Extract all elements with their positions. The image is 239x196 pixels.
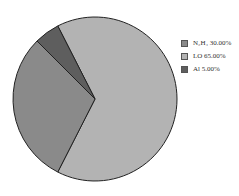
legend-item-al: Al 5.00% xyxy=(181,63,231,76)
pie-chart xyxy=(0,0,239,196)
legend-item-n2h4: N₂H₄ 30.00% xyxy=(181,37,231,50)
legend-item-lo: LO 65.00% xyxy=(181,50,231,63)
legend: N₂H₄ 30.00% LO 65.00% Al 5.00% xyxy=(181,37,231,76)
legend-swatch-al xyxy=(181,66,188,73)
legend-swatch-lo xyxy=(181,53,188,60)
legend-label-al: Al 5.00% xyxy=(193,63,220,76)
legend-swatch-n2h4 xyxy=(181,40,188,47)
legend-label-lo: LO 65.00% xyxy=(193,50,226,63)
legend-label-n2h4: N₂H₄ 30.00% xyxy=(193,37,231,50)
